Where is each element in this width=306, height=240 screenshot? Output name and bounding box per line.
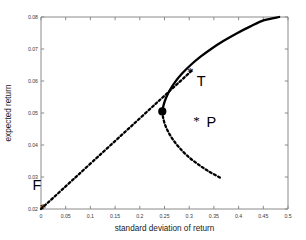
x-tick-label: 0.5 bbox=[284, 213, 291, 219]
x-axis-label: standard deviation of return bbox=[115, 224, 215, 233]
series-efficient-frontier-upper bbox=[162, 17, 279, 111]
y-tick-label: 0.08 bbox=[28, 14, 38, 20]
y-tick-label: 0.07 bbox=[28, 46, 38, 52]
x-tick-label: 0.45 bbox=[258, 213, 268, 219]
point-label-p: P bbox=[207, 114, 217, 130]
y-tick-label: 0.06 bbox=[28, 78, 38, 84]
x-tick-label: 0.35 bbox=[209, 213, 219, 219]
efficient-frontier-chart: 00.050.10.150.20.250.30.350.40.450.5 0.0… bbox=[0, 0, 306, 240]
x-tick-label: 0.05 bbox=[61, 213, 71, 219]
series-capital-market-line bbox=[41, 71, 192, 209]
x-tick-label: 0.2 bbox=[136, 213, 143, 219]
x-tick-label: 0.15 bbox=[110, 213, 120, 219]
asterisk-marker-p-icon: * bbox=[193, 113, 200, 128]
y-tick-label: 0.05 bbox=[28, 110, 38, 116]
point-label-f: F bbox=[33, 177, 42, 193]
x-tick-label: 0.3 bbox=[186, 213, 193, 219]
y-axis-label: expected return bbox=[4, 84, 13, 141]
x-tick-label: 0.4 bbox=[235, 213, 242, 219]
asterisk-marker-f-icon: * bbox=[40, 200, 47, 215]
y-axis-ticks: 0.020.030.040.050.060.070.08 bbox=[28, 14, 288, 212]
chart-figure: 00.050.10.150.20.250.30.350.40.450.5 0.0… bbox=[0, 0, 306, 240]
point-label-t: T bbox=[197, 73, 206, 89]
y-tick-label: 0.04 bbox=[28, 142, 38, 148]
x-tick-label: 0.25 bbox=[159, 213, 169, 219]
minimum-variance-point bbox=[158, 107, 166, 115]
asterisk-marker-t-icon: * bbox=[187, 64, 194, 79]
special-markers-group bbox=[158, 107, 166, 115]
x-axis-ticks: 00.050.10.150.20.250.30.350.40.450.5 bbox=[40, 17, 292, 219]
y-tick-label: 0.02 bbox=[28, 206, 38, 212]
x-tick-label: 0.1 bbox=[87, 213, 94, 219]
